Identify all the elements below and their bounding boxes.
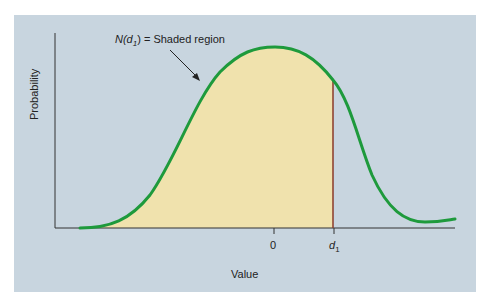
arrow-head bbox=[192, 73, 200, 81]
y-axis-label: Probability bbox=[28, 69, 40, 120]
shaded-region bbox=[80, 47, 333, 228]
annotation-label: N(d1) = Shaded region bbox=[115, 33, 225, 48]
x-tick-label-zero: 0 bbox=[270, 239, 276, 251]
annotation-arrow bbox=[170, 50, 198, 78]
x-axis-label: Value bbox=[231, 268, 258, 280]
chart-svg bbox=[0, 0, 492, 305]
x-tick-label-d1: d1 bbox=[329, 239, 340, 254]
